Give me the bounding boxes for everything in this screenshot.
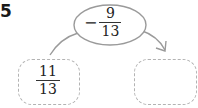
minus-sign: − bbox=[84, 13, 97, 32]
operator-denominator: 13 bbox=[101, 24, 119, 39]
left-fraction: 11 13 bbox=[36, 64, 60, 97]
operator-fraction: 9 13 bbox=[99, 6, 121, 39]
left-connector-line bbox=[50, 33, 78, 55]
arrow-head-icon bbox=[156, 41, 166, 51]
left-numerator: 11 bbox=[39, 64, 57, 79]
operator-expression: − 9 13 bbox=[84, 6, 121, 39]
right-answer-box[interactable] bbox=[134, 59, 197, 105]
left-denominator: 13 bbox=[39, 82, 57, 97]
operator-numerator: 9 bbox=[106, 6, 115, 21]
